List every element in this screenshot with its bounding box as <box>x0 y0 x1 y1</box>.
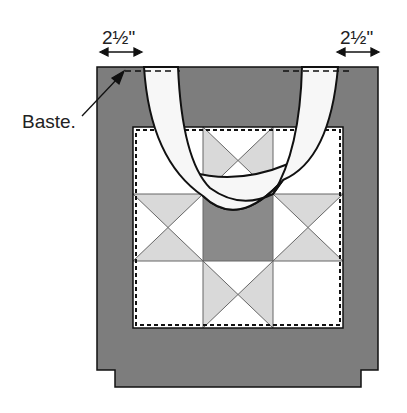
right-measure-label: 2½" <box>340 27 373 48</box>
measure-right <box>337 48 379 56</box>
left-measure-label: 2½" <box>102 27 135 48</box>
measure-left <box>100 48 142 56</box>
tote-bag-diagram: 2½" 2½" Baste. <box>0 0 407 413</box>
baste-label: Baste. <box>22 111 76 132</box>
